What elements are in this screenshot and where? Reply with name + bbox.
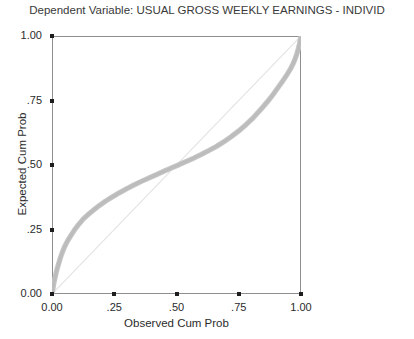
y-tick-label: 0.00 <box>0 287 42 299</box>
x-tick-label: .75 <box>209 301 269 313</box>
y-tick-mark <box>50 99 54 103</box>
x-tick-mark <box>112 292 116 296</box>
x-tick-mark <box>299 292 303 296</box>
x-tick-mark <box>237 292 241 296</box>
y-tick-mark <box>50 163 54 167</box>
x-tick-label: .50 <box>147 301 207 313</box>
pp-plot-chart: Dependent Variable: USUAL GROSS WEEKLY E… <box>0 0 414 339</box>
x-axis-title: Observed Cum Prob <box>52 317 301 329</box>
x-tick-mark <box>50 292 54 296</box>
plot-canvas <box>52 36 301 294</box>
y-axis-title: Expected Cum Prob <box>16 84 28 244</box>
chart-title: Dependent Variable: USUAL GROSS WEEKLY E… <box>0 4 414 16</box>
y-tick-mark <box>50 228 54 232</box>
y-tick-label: 1.00 <box>0 29 42 41</box>
x-tick-mark <box>175 292 179 296</box>
y-tick-mark <box>50 34 54 38</box>
x-tick-label: 0.00 <box>22 301 82 313</box>
x-tick-label: .25 <box>84 301 144 313</box>
x-tick-label: 1.00 <box>271 301 331 313</box>
